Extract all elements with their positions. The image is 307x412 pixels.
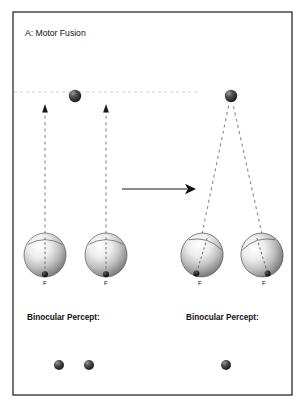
percept-dot-fused	[221, 360, 231, 370]
fovea-dot	[42, 271, 48, 277]
percept-dot-left	[54, 360, 64, 370]
fovea-label: F	[262, 279, 266, 286]
figure-background	[0, 0, 307, 412]
fovea-label: F	[198, 279, 202, 286]
fixation-target-right	[225, 90, 237, 102]
binocular-percept-label: Binocular Percept:	[186, 313, 259, 322]
binocular-percept-label: Binocular Percept:	[27, 313, 100, 322]
eye-right	[85, 233, 127, 277]
motor-fusion-diagram: FFBinocular Percept: FFBinocular Percept…	[0, 0, 307, 412]
fovea-label: F	[43, 279, 47, 286]
eye-left	[24, 233, 66, 277]
percept-dot-right	[84, 360, 94, 370]
figure-root: FFBinocular Percept: FFBinocular Percept…	[0, 0, 307, 412]
fovea-dot	[103, 271, 109, 277]
fovea-label: F	[104, 279, 108, 286]
fixation-target-left	[69, 90, 81, 102]
panel-title: A: Motor Fusion	[25, 28, 86, 38]
